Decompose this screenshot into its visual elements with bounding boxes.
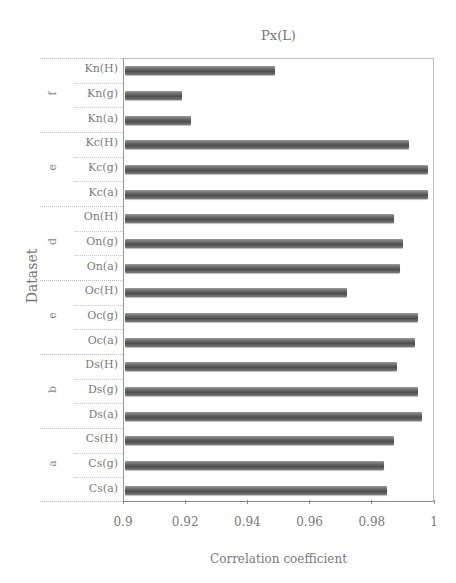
category-label: On(g) [86, 235, 118, 248]
category-label: On(H) [84, 210, 118, 223]
bar [125, 214, 394, 223]
category-label: Cs(H) [86, 432, 118, 445]
category-label: Oc(a) [88, 334, 118, 347]
x-tick [371, 500, 372, 504]
category-label: Ds(H) [85, 358, 118, 371]
bar [125, 362, 397, 371]
group-label: b [46, 380, 59, 400]
category-label: Kn(a) [88, 112, 118, 125]
category-label: Ds(g) [88, 383, 118, 396]
group-label: a [46, 454, 59, 474]
category-label: Ds(a) [88, 408, 118, 421]
row-divider [75, 403, 123, 404]
bar [125, 387, 418, 396]
row-divider [75, 453, 123, 454]
group-divider [40, 354, 123, 355]
x-tick-label: 0.92 [160, 515, 210, 529]
bar [125, 66, 275, 75]
category-label: Oc(H) [85, 284, 118, 297]
bar [125, 116, 191, 125]
bar [125, 140, 409, 149]
bar [125, 486, 387, 495]
x-tick [309, 500, 310, 504]
group-divider [40, 280, 123, 281]
row-divider [75, 477, 123, 478]
bar [125, 338, 415, 347]
row-divider [75, 83, 123, 84]
x-axis-label: Correlation coefficient [123, 552, 434, 566]
bar [125, 264, 400, 273]
x-tick [434, 500, 435, 504]
row-divider [75, 107, 123, 108]
row-divider [75, 231, 123, 232]
bar [125, 91, 182, 100]
category-label: Kc(H) [85, 136, 118, 149]
row-divider [75, 305, 123, 306]
bar [125, 313, 418, 322]
group-divider [40, 206, 123, 207]
x-tick-label: 0.9 [98, 515, 148, 529]
group-divider [40, 428, 123, 429]
plot-area [123, 58, 434, 502]
group-label: e [46, 158, 59, 178]
x-tick [185, 500, 186, 504]
group-divider [40, 501, 123, 502]
chart-title: Px(L) [123, 28, 434, 43]
x-tick [247, 500, 248, 504]
category-label: Oc(g) [87, 309, 118, 322]
row-divider [75, 255, 123, 256]
category-label: Cs(a) [89, 482, 118, 495]
bar [125, 436, 394, 445]
group-label: e [46, 306, 59, 326]
bar [125, 239, 403, 248]
bar [125, 190, 428, 199]
group-divider [40, 132, 123, 133]
row-divider [75, 379, 123, 380]
row-divider [75, 157, 123, 158]
row-divider [75, 181, 123, 182]
group-label: d [46, 232, 59, 252]
x-tick-label: 0.98 [347, 515, 397, 529]
category-label: Kn(H) [85, 62, 118, 75]
y-axis-label: Dataset [24, 236, 40, 316]
x-tick-label: 1 [409, 515, 456, 529]
x-tick [123, 500, 124, 504]
x-tick-label: 0.96 [285, 515, 335, 529]
category-label: Kc(a) [88, 186, 118, 199]
group-label: f [46, 84, 59, 104]
category-label: On(a) [87, 260, 118, 273]
group-divider [40, 58, 123, 59]
category-label: Cs(g) [88, 457, 118, 470]
bar [125, 461, 384, 470]
bar [125, 288, 347, 297]
bar [125, 165, 428, 174]
category-label: Kn(g) [87, 87, 118, 100]
x-tick-label: 0.94 [222, 515, 272, 529]
category-label: Kc(g) [88, 161, 118, 174]
bar [125, 412, 422, 421]
row-divider [75, 329, 123, 330]
